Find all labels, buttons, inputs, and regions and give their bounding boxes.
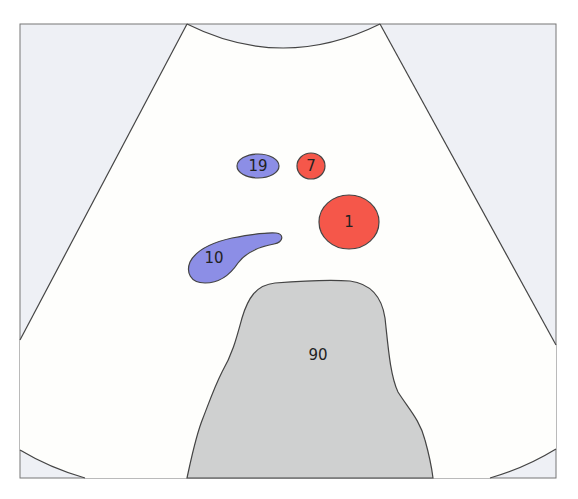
structure-1-label: 1 [344, 213, 354, 231]
structure-19: 19 [237, 154, 279, 178]
structure-7: 7 [297, 153, 325, 179]
structure-7-label: 7 [306, 157, 316, 175]
structure-10-label: 10 [204, 249, 223, 267]
structure-19-label: 19 [248, 157, 267, 175]
structure-1: 1 [319, 195, 379, 249]
ultrasound-diagram: 90 10 19 7 1 [0, 0, 578, 499]
structure-90-label: 90 [308, 346, 327, 364]
